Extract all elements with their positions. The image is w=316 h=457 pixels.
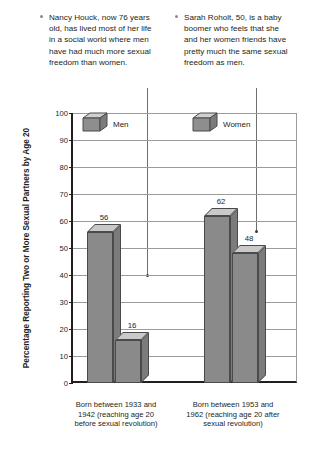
y-tick-label: 40 (60, 271, 68, 280)
y-tick-label: 30 (60, 298, 68, 307)
y-tick-mark (69, 167, 73, 168)
y-tick-mark (69, 383, 73, 384)
category-label: Born between 1953 and 1962 (reaching age… (185, 400, 281, 429)
bar-front-face (87, 232, 113, 383)
gridline (73, 167, 296, 168)
bar-women-group2 (232, 253, 258, 383)
y-axis-title: Percentage Reporting Two or More Sexual … (14, 113, 40, 383)
legend-item-men: Men (82, 112, 129, 136)
bar-men-group1 (87, 232, 113, 383)
gridline (73, 194, 296, 195)
bar-value-label: 56 (84, 213, 124, 222)
bar-front-face (115, 340, 141, 383)
bar-women-group1 (115, 340, 141, 383)
y-tick-mark (69, 275, 73, 276)
cube-icon (82, 112, 108, 136)
y-tick-label: 0 (64, 379, 68, 388)
y-tick-label: 90 (60, 136, 68, 145)
bar-value-label: 16 (112, 321, 152, 330)
bar-chart: Percentage Reporting Two or More Sexual … (0, 0, 316, 457)
category-label: Born between 1933 and 1942 (reaching age… (68, 400, 164, 429)
y-tick-label: 50 (60, 244, 68, 253)
y-tick-mark (69, 356, 73, 357)
legend-label-women: Women (223, 120, 250, 129)
bar-value-label: 48 (229, 234, 269, 243)
bar-men-group2 (204, 216, 230, 383)
y-tick-mark (69, 302, 73, 303)
y-tick-label: 10 (60, 352, 68, 361)
bar-front-face (232, 253, 258, 383)
bar-side-face (141, 332, 149, 383)
y-tick-mark (69, 113, 73, 114)
bar-value-label: 62 (201, 197, 241, 206)
y-tick-mark (69, 194, 73, 195)
y-tick-mark (69, 221, 73, 222)
bar-side-face (258, 245, 266, 383)
y-tick-mark (69, 248, 73, 249)
y-tick-mark (69, 329, 73, 330)
legend-item-women: Women (192, 112, 250, 136)
cube-icon (192, 112, 218, 136)
y-tick-label: 80 (60, 163, 68, 172)
y-tick-label: 70 (60, 190, 68, 199)
y-tick-label: 60 (60, 217, 68, 226)
y-tick-mark (69, 140, 73, 141)
gridline (73, 140, 296, 141)
bar-front-face (204, 216, 230, 383)
y-tick-label: 20 (60, 325, 68, 334)
legend-label-men: Men (113, 120, 129, 129)
y-tick-label: 100 (55, 109, 68, 118)
